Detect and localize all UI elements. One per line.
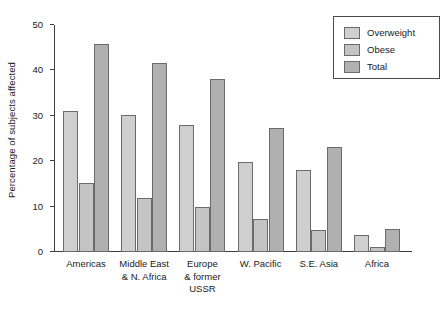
legend-label-overweight: Overweight [367,27,415,38]
bar-group [179,25,225,252]
bar [370,247,385,252]
x-axis-label: Africa [332,258,422,271]
y-tick-label: 0 [38,246,43,257]
legend-swatch-icon-overweight [344,27,360,39]
y-axis-title: Percentage of subjects affected [4,14,20,246]
bar [63,111,78,252]
bar [195,207,210,252]
bar [94,44,109,252]
bar [121,115,136,252]
bar-chart: Percentage of subjects affected 01020304… [0,0,447,321]
bar [311,230,326,252]
y-tick: 10 [50,206,54,207]
y-tick-label: 40 [32,64,43,75]
bar [152,63,167,252]
bar [269,128,284,252]
y-tick: 50 [50,24,54,25]
legend-label-obese: Obese [367,44,395,55]
bar [296,170,311,252]
y-tick-label: 30 [32,109,43,120]
legend-label-total: Total [367,61,387,72]
bar [238,162,253,252]
y-tick-label: 50 [32,19,43,30]
y-tick: 30 [50,115,54,116]
bar [385,229,400,252]
y-tick: 20 [50,160,54,161]
legend-item-obese: Obese [344,41,439,58]
bar [137,198,152,252]
y-tick: 0 [50,251,54,252]
bar [354,235,369,252]
legend-item-overweight: Overweight [344,24,439,41]
legend-swatch-icon-total [344,61,360,73]
y-tick-label: 10 [32,200,43,211]
bar [253,219,268,252]
bar [179,125,194,252]
bar-group [238,25,284,252]
bar [327,147,342,252]
bar [79,183,94,252]
bar [210,79,225,252]
bar-group [63,25,109,252]
bar-group [121,25,167,252]
y-axis-line [54,25,55,252]
legend-item-total: Total [344,58,439,75]
y-tick: 40 [50,69,54,70]
legend-swatch-icon-obese [344,44,360,56]
legend: Overweight Obese Total [333,16,440,79]
y-tick-label: 20 [32,155,43,166]
